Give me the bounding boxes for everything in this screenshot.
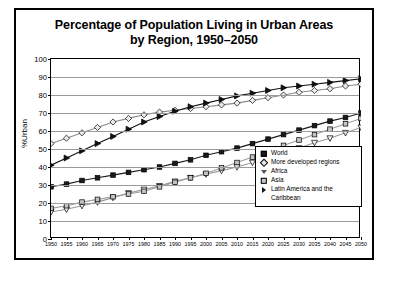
y-axis-tick-label: 100: [25, 55, 47, 64]
legend-marker-icon: [259, 176, 268, 185]
data-point-marker: [142, 189, 147, 194]
data-point-marker: [234, 100, 240, 106]
data-point-marker: [63, 135, 69, 141]
y-axis-tick-label: 80: [25, 91, 47, 100]
x-axis-tick: [284, 237, 285, 240]
legend-item[interactable]: More developed regions: [259, 158, 358, 167]
gridline: [51, 131, 359, 132]
data-point-marker: [51, 141, 54, 147]
x-axis-tick: [160, 237, 161, 240]
x-axis-tick: [330, 237, 331, 240]
x-axis-tick: [222, 237, 223, 240]
y-axis-tick: [48, 95, 51, 96]
data-point-marker: [64, 155, 70, 161]
x-axis-tick: [98, 237, 99, 240]
legend-marker-icon: [259, 167, 268, 176]
x-axis-tick-label: 2040: [324, 241, 336, 247]
x-axis-tick-label: 2000: [200, 241, 212, 247]
x-axis-tick-label: 1970: [107, 241, 119, 247]
data-point-marker: [51, 206, 53, 211]
data-point-marker: [204, 171, 209, 176]
x-axis-tick: [175, 237, 176, 240]
data-point-marker: [312, 123, 317, 128]
legend-item[interactable]: Asia: [259, 176, 358, 185]
data-point-marker: [188, 158, 193, 163]
data-point-marker: [173, 180, 178, 185]
data-point-marker: [359, 116, 361, 121]
legend-item[interactable]: Africa: [259, 167, 358, 176]
y-axis-tick: [48, 203, 51, 204]
data-point-marker: [328, 119, 333, 124]
legend-item[interactable]: World: [259, 149, 358, 158]
x-axis-tick-label: 1950: [45, 241, 57, 247]
y-axis-tick-label: 40: [25, 163, 47, 172]
data-point-marker: [95, 197, 100, 202]
x-axis-tick: [129, 237, 130, 240]
data-point-marker: [126, 192, 131, 197]
y-axis-tick: [48, 185, 51, 186]
data-point-marker: [312, 81, 318, 87]
x-axis-tick-label: 1990: [169, 241, 181, 247]
data-point-marker: [204, 153, 209, 158]
data-point-marker: [94, 124, 100, 130]
y-axis-tick-label: 90: [25, 73, 47, 82]
data-point-marker: [359, 111, 361, 116]
x-axis-tick: [191, 237, 192, 240]
x-axis-tick-label: 1975: [123, 241, 135, 247]
legend-marker-icon: [259, 149, 268, 158]
x-axis-tick: [144, 237, 145, 240]
y-axis-tick: [48, 167, 51, 168]
x-axis-tick-label: 1960: [76, 241, 88, 247]
x-axis-tick: [299, 237, 300, 240]
x-axis-tick: [113, 237, 114, 240]
legend-item-label: World: [271, 149, 358, 158]
data-point-marker: [311, 87, 317, 93]
data-point-marker: [343, 115, 348, 120]
y-axis-tick: [48, 77, 51, 78]
data-point-marker: [297, 83, 303, 89]
y-axis-tick-label: 70: [25, 109, 47, 118]
x-axis-tick-label: 2015: [247, 241, 259, 247]
gridline: [51, 77, 359, 78]
y-axis-tick: [48, 113, 51, 114]
y-axis-tick-label: 30: [25, 181, 47, 190]
x-axis-tick: [315, 237, 316, 240]
data-point-marker: [328, 79, 334, 85]
legend-marker-icon: [259, 185, 268, 194]
data-point-marker: [188, 176, 193, 181]
data-point-marker: [249, 97, 255, 103]
y-axis-tick: [48, 221, 51, 222]
legend-item-label: More developed regions: [271, 158, 358, 167]
data-point-marker: [343, 122, 348, 127]
data-point-marker: [142, 167, 147, 172]
data-point-marker: [111, 194, 116, 199]
x-axis-tick-label: 1980: [138, 241, 150, 247]
x-axis-tick: [206, 237, 207, 240]
x-axis-tick-label: 2030: [293, 241, 305, 247]
chart-figure: Percentage of Population Living in Urban…: [14, 8, 374, 260]
chart-legend: WorldMore developed regionsAfricaAsiaLat…: [255, 146, 362, 207]
legend-marker-icon: [259, 158, 268, 167]
legend-item[interactable]: Latin America and the Caribbean: [259, 185, 358, 202]
data-point-marker: [266, 88, 272, 94]
x-axis-tick-label: 2020: [262, 241, 274, 247]
y-axis-tick-label: 50: [25, 145, 47, 154]
x-axis-tick: [361, 237, 362, 240]
y-axis-tick: [48, 149, 51, 150]
x-axis-tick-label: 1955: [61, 241, 73, 247]
x-axis-tick-label: 2010: [231, 241, 243, 247]
x-axis-tick: [67, 237, 68, 240]
y-axis-tick-label: 60: [25, 127, 47, 136]
x-axis-tick: [346, 237, 347, 240]
data-point-marker: [110, 119, 116, 125]
chart-title-line-1: Percentage of Population Living in Urban…: [16, 18, 372, 33]
data-point-marker: [95, 176, 100, 181]
data-point-marker: [281, 85, 287, 91]
chart-title: Percentage of Population Living in Urban…: [16, 18, 372, 47]
data-point-marker: [297, 138, 302, 143]
data-point-marker: [343, 78, 349, 84]
data-point-marker: [64, 203, 69, 208]
x-axis-tick: [51, 237, 52, 240]
y-axis-tick: [48, 131, 51, 132]
gridline: [51, 221, 359, 222]
